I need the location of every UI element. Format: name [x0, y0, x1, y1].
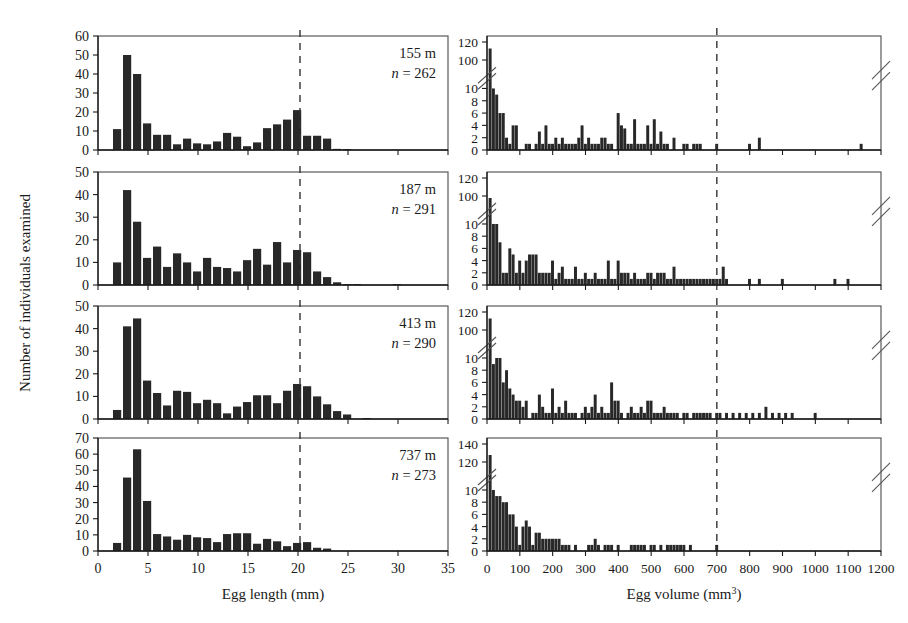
- histogram-bar: [666, 144, 669, 150]
- histogram-bar: [502, 382, 505, 419]
- histogram-bar: [833, 279, 836, 285]
- y-axis-title-group: Number of individuals examined: [17, 194, 33, 392]
- y-tick-label-upper: 140: [458, 437, 479, 452]
- histogram-bar: [551, 388, 554, 419]
- histogram-bar: [303, 386, 311, 419]
- panel-panel-155m-length: 0102030405060155 mn = 262: [75, 29, 448, 158]
- y-tick-label: 20: [75, 512, 89, 527]
- histogram-bar: [709, 413, 712, 419]
- x-axis-title: Egg volume (mm3): [627, 585, 742, 603]
- histogram-bar: [686, 144, 689, 150]
- histogram-bar: [650, 401, 653, 419]
- histogram-bar: [273, 242, 281, 285]
- histogram-bar: [223, 268, 231, 285]
- histogram-bar: [495, 224, 498, 285]
- x-axis-title-base: Egg volume (mm: [627, 586, 732, 603]
- y-tick-label-upper: 100: [458, 189, 479, 204]
- histogram-bar: [193, 271, 201, 285]
- sample-size-label: n = 290: [392, 335, 436, 351]
- x-tick-label: 1100: [835, 561, 862, 576]
- histogram-bar: [489, 49, 492, 151]
- histogram-bar: [617, 113, 620, 150]
- histogram-bar: [663, 407, 666, 419]
- histogram-bar: [630, 407, 633, 419]
- histogram-bar: [243, 533, 251, 551]
- y-tick-label: 30: [75, 210, 89, 225]
- histogram-bar: [303, 136, 311, 150]
- n-italic: n: [392, 335, 399, 351]
- histogram-bar: [541, 273, 544, 285]
- histogram-bar: [515, 527, 518, 551]
- histogram-bar: [771, 413, 774, 419]
- histogram-bar: [643, 279, 646, 285]
- histogram-bar: [163, 536, 171, 551]
- histogram-bar: [551, 144, 554, 150]
- n-value: = 273: [399, 467, 436, 483]
- histogram-bar: [594, 273, 597, 285]
- histogram-bar: [123, 326, 131, 419]
- x-tick-label: 800: [740, 561, 761, 576]
- y-tick-label: 10: [75, 528, 89, 543]
- y-tick-label: 60: [75, 29, 89, 44]
- histogram-bar: [183, 262, 191, 285]
- histogram-bar: [732, 413, 735, 419]
- histogram-bar: [682, 144, 685, 150]
- histogram-bar: [213, 403, 221, 419]
- histogram-bar: [633, 545, 636, 551]
- histogram-bar: [653, 413, 656, 419]
- y-tick-label: 0: [82, 412, 89, 427]
- histogram-bar: [571, 144, 574, 150]
- histogram-bar: [113, 129, 121, 150]
- histogram-bar: [659, 545, 662, 551]
- histogram-bar: [508, 144, 511, 150]
- histogram-bar: [610, 545, 613, 551]
- x-tick-label: 1000: [802, 561, 829, 576]
- panel-frame: [487, 306, 881, 419]
- histogram-bar: [515, 273, 518, 285]
- histogram-bar: [574, 144, 577, 150]
- histogram-bar: [613, 279, 616, 285]
- x-tick-label: 30: [391, 561, 405, 576]
- histogram-bar: [633, 119, 636, 150]
- histogram-bar: [233, 533, 241, 551]
- histogram-bar: [725, 279, 728, 285]
- x-tick-label: 35: [441, 561, 455, 576]
- histogram-bar: [604, 138, 607, 150]
- figure-container: 0102030405060155 mn = 26201020304050187 …: [0, 0, 908, 623]
- x-axis-title-close: ): [737, 586, 742, 603]
- histogram-bar: [581, 279, 584, 285]
- y-tick-label: 20: [75, 233, 89, 248]
- histogram-bar: [213, 542, 221, 551]
- histogram-bar: [263, 539, 271, 551]
- histogram-bar: [541, 144, 544, 150]
- histogram-bar: [564, 401, 567, 419]
- histogram-bar: [223, 133, 231, 150]
- histogram-bar: [541, 539, 544, 551]
- y-tick-label: 10: [465, 217, 479, 232]
- x-tick-label: 900: [772, 561, 793, 576]
- histogram-bar: [623, 128, 626, 150]
- histogram-bar: [505, 273, 508, 285]
- histogram-bar: [587, 138, 590, 150]
- histogram-bar: [163, 405, 171, 419]
- x-tick-label: 500: [641, 561, 662, 576]
- y-tick-label: 10: [465, 81, 479, 96]
- histogram-bar: [558, 539, 561, 551]
- histogram-bar: [630, 279, 633, 285]
- histogram-figure: 0102030405060155 mn = 26201020304050187 …: [0, 0, 908, 623]
- histogram-bar: [695, 279, 698, 285]
- histogram-bar: [535, 144, 538, 150]
- histogram-bar: [544, 413, 547, 419]
- histogram-bar: [630, 545, 633, 551]
- depth-label: 155 m: [399, 45, 436, 61]
- histogram-bar: [702, 413, 705, 419]
- histogram-bar: [604, 279, 607, 285]
- histogram-bar: [528, 254, 531, 285]
- histogram-bar: [669, 413, 672, 419]
- x-tick-label: 15: [241, 561, 255, 576]
- histogram-bar: [525, 144, 528, 150]
- histogram-bar: [650, 545, 653, 551]
- sample-size-label: n = 291: [392, 201, 436, 217]
- depth-label: 737 m: [399, 447, 436, 463]
- x-tick-label: 0: [484, 561, 491, 576]
